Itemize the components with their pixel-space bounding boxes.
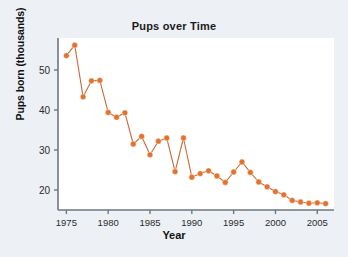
y-tick-label: 50 <box>24 65 50 76</box>
series-line <box>66 45 325 203</box>
data-point <box>231 169 237 175</box>
data-point <box>114 114 120 120</box>
x-tick-label: 1985 <box>133 217 167 228</box>
data-point <box>214 173 220 179</box>
chart-title: Pups over Time <box>0 20 348 32</box>
y-tick-label: 30 <box>24 145 50 156</box>
data-point <box>72 42 78 48</box>
data-point <box>147 152 153 158</box>
data-point <box>247 170 253 176</box>
x-tick-label: 2005 <box>300 217 334 228</box>
data-series-layer <box>58 38 334 210</box>
data-point <box>264 184 270 190</box>
data-point <box>289 198 295 204</box>
data-point <box>139 134 145 140</box>
data-point <box>189 174 195 180</box>
y-tick-label: 20 <box>24 185 50 196</box>
data-point <box>239 159 245 165</box>
chart-figure: Pups over Time Pups born (thousands) 203… <box>0 0 348 257</box>
data-point <box>298 199 304 205</box>
data-point <box>197 171 203 177</box>
data-point <box>89 78 95 84</box>
data-point <box>63 53 69 59</box>
data-point <box>105 110 111 116</box>
plot-wrapper: 20304050 1975198019851990199520002005 <box>58 38 334 210</box>
data-point <box>97 78 103 84</box>
data-point <box>130 141 136 147</box>
y-tick-label: 40 <box>24 105 50 116</box>
data-point <box>181 135 187 141</box>
data-point <box>273 189 279 195</box>
data-point <box>122 110 128 116</box>
x-tick-label: 2000 <box>258 217 292 228</box>
data-point <box>164 135 170 141</box>
data-point <box>222 180 228 186</box>
x-axis-title: Year <box>0 229 348 241</box>
data-point <box>206 168 212 174</box>
data-point <box>256 179 262 185</box>
data-point <box>281 192 287 198</box>
data-point <box>155 138 161 144</box>
x-tick-label: 1980 <box>91 217 125 228</box>
data-point <box>323 201 329 207</box>
data-point <box>314 200 320 206</box>
x-tick-label: 1995 <box>217 217 251 228</box>
x-tick-label: 1990 <box>175 217 209 228</box>
data-point <box>80 94 86 100</box>
x-tick-label: 1975 <box>49 217 83 228</box>
data-point <box>306 200 312 206</box>
data-point <box>172 169 178 175</box>
